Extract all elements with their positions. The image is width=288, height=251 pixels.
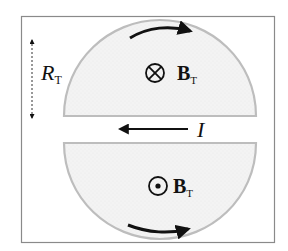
radius-label: RT [40,60,62,87]
lower-half-disk [64,143,256,239]
lower-field-label-subscript: T [186,187,193,199]
upper-field-label-subscript: T [190,74,197,86]
tokamak-field-diagram: RT BT I BT [0,0,288,251]
current-label: I [196,117,206,142]
radius-label-subscript: T [54,73,62,87]
